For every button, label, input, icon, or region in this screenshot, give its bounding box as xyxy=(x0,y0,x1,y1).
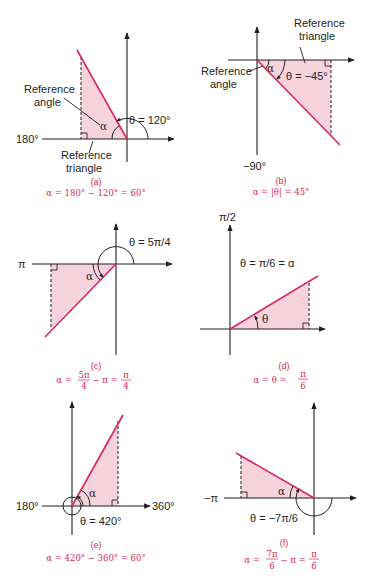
theta-label: θ = 120° xyxy=(129,114,170,126)
frac1-num: 5π xyxy=(79,370,90,380)
callout-reference-angle-2: angle xyxy=(34,96,61,108)
frac2-den: 6 xyxy=(311,561,316,571)
callout-reference-triangle-2: triangle xyxy=(66,162,102,174)
svg-text:α =: α = xyxy=(244,555,260,565)
alpha-label: α xyxy=(278,485,285,497)
caption: α = 5π 4 − π = π 4 xyxy=(56,370,131,391)
frac2-num: π xyxy=(123,370,129,380)
frac1-num: 7π xyxy=(267,549,278,559)
callout-reference-triangle-1: Reference xyxy=(294,17,345,29)
axis-label-360: 360° xyxy=(152,500,175,512)
callout-reference-angle-1: Reference xyxy=(24,83,75,95)
panel-label: (e) xyxy=(91,540,102,550)
callout-reference-angle-1: Reference xyxy=(201,65,252,77)
caption: α = 180° − 120° = 60° xyxy=(46,188,145,198)
panel-e: 180° 360° α θ = 420° (e) α = 420° − 360°… xyxy=(16,402,175,563)
axis-label-neg-pi: −π xyxy=(204,492,218,504)
frac-num: π xyxy=(300,369,306,379)
frac-den: 6 xyxy=(300,381,305,391)
callout-reference-triangle-2: triangle xyxy=(299,30,335,42)
axis-label-pi: π xyxy=(18,258,26,270)
panel-b: Reference triangle Reference angle α θ =… xyxy=(201,17,354,198)
panel-d: π/2 θ = π/6 = α θ (d) α = θ = π 6 xyxy=(200,211,325,391)
axis-label-180: 180° xyxy=(16,500,39,512)
alpha-label: α xyxy=(86,270,93,282)
svg-text:− π =: − π = xyxy=(280,555,305,565)
alpha-label: α xyxy=(89,487,96,499)
axis-label-pi-over-2: π/2 xyxy=(219,211,236,223)
panel-label: (c) xyxy=(91,361,102,371)
reference-angle-figure: Reference angle α θ = 120° 180° Referenc… xyxy=(0,0,376,586)
panel-c: π α θ = 5π/4 (c) α = 5π 4 − π = π 4 xyxy=(18,224,172,391)
caption: α = 7π 6 − π = π 6 xyxy=(244,549,319,571)
callout-reference-triangle-1: Reference xyxy=(61,149,112,161)
theta-label: θ = −45° xyxy=(286,70,328,82)
svg-text:− π =: − π = xyxy=(92,375,117,385)
panel-label: (f) xyxy=(280,538,289,548)
panel-f: −π α θ = −7π/6 (f) α = 7π 6 − π = π 6 xyxy=(204,403,356,571)
alpha-label: α xyxy=(100,120,107,132)
axis-label-neg90: −90° xyxy=(243,160,266,172)
theta-label: θ = 420° xyxy=(80,515,121,527)
theta-label: θ = π/6 = α xyxy=(240,257,295,269)
angle-label: θ xyxy=(262,313,268,325)
theta-label: θ = −7π/6 xyxy=(250,512,298,524)
panel-a: Reference angle α θ = 120° 180° Referenc… xyxy=(16,33,174,198)
svg-text:α =: α = xyxy=(56,375,72,385)
frac2-den: 4 xyxy=(123,381,128,391)
theta-label: θ = 5π/4 xyxy=(129,236,171,248)
panel-label: (a) xyxy=(91,177,102,187)
panel-label: (b) xyxy=(276,176,287,186)
axis-label-180: 180° xyxy=(16,133,39,145)
frac1-den: 6 xyxy=(269,561,274,571)
caption: α = θ = π 6 xyxy=(253,369,308,391)
caption: α = |θ| = 45° xyxy=(253,187,310,198)
panel-label: (d) xyxy=(279,361,290,371)
caption: α = 420° − 360° = 60° xyxy=(46,553,145,563)
callout-reference-angle-2: angle xyxy=(210,78,237,90)
alpha-label: α xyxy=(267,62,274,74)
frac1-den: 4 xyxy=(81,381,86,391)
frac2-num: π xyxy=(311,549,317,559)
svg-text:α = θ =: α = θ = xyxy=(253,375,286,385)
